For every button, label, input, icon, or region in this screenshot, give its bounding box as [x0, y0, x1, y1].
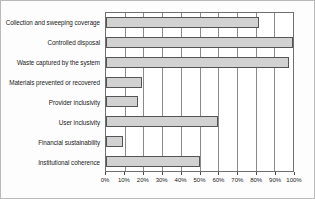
x-axis-tick-mark	[200, 172, 201, 175]
x-axis-tick-mark	[162, 172, 163, 175]
x-axis-tick-label: 40%	[175, 176, 187, 184]
x-axis-tick-label: 10%	[118, 176, 130, 184]
x-axis-tick-label: 80%	[250, 176, 262, 184]
category-label: Collection and sweeping coverage	[5, 12, 103, 32]
bar-row	[106, 33, 293, 53]
bar[interactable]	[106, 37, 293, 48]
x-axis-tick-mark	[124, 172, 125, 175]
bar[interactable]	[106, 17, 259, 28]
bar[interactable]	[106, 57, 289, 68]
x-axis-tick-mark	[105, 172, 106, 175]
x-axis-tick-label: 70%	[231, 176, 243, 184]
category-label-column: Collection and sweeping coverage Control…	[5, 12, 103, 172]
bar-chart-figure: Collection and sweeping coverage Control…	[0, 0, 315, 199]
category-label: Waste captured by the system	[5, 52, 103, 72]
bar-row	[106, 92, 293, 112]
bar-row	[106, 132, 293, 152]
bar[interactable]	[106, 77, 142, 88]
category-label: Institutional coherence	[5, 152, 103, 172]
bar[interactable]	[106, 156, 200, 167]
bar-row	[106, 72, 293, 92]
x-axis-tick-label: 30%	[156, 176, 168, 184]
x-axis-tick-label: 90%	[269, 176, 281, 184]
x-axis-tick-label: 60%	[212, 176, 224, 184]
x-axis-tick-mark	[237, 172, 238, 175]
plot-area	[105, 12, 294, 172]
bar[interactable]	[106, 96, 138, 107]
bar-series	[106, 13, 293, 171]
category-label: Provider inclusivity	[5, 92, 103, 112]
x-axis-tick-label: 50%	[193, 176, 205, 184]
category-label: Financial sustainability	[5, 132, 103, 152]
x-axis: 0%10%20%30%40%50%60%70%80%90%100%	[105, 172, 294, 188]
x-axis-tick-label: 0%	[101, 176, 110, 184]
category-label: User inclusivity	[5, 112, 103, 132]
x-axis-tick-label: 100%	[286, 176, 301, 184]
category-label: Controlled disposal	[5, 32, 103, 52]
category-label: Materials prevented or recovered	[5, 72, 103, 92]
x-axis-tick-mark	[256, 172, 257, 175]
bar[interactable]	[106, 136, 123, 147]
bar-row	[106, 53, 293, 73]
bar-row	[106, 13, 293, 33]
x-axis-tick-mark	[143, 172, 144, 175]
bar[interactable]	[106, 116, 218, 127]
bar-row	[106, 151, 293, 171]
x-axis-tick-mark	[294, 172, 295, 175]
x-axis-tick-mark	[218, 172, 219, 175]
x-axis-tick-mark	[275, 172, 276, 175]
x-axis-tick-mark	[181, 172, 182, 175]
x-axis-tick-label: 20%	[137, 176, 149, 184]
bar-row	[106, 112, 293, 132]
